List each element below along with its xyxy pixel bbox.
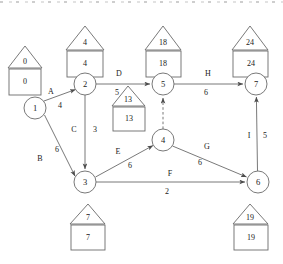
tag-latest-node-2: 4: [83, 60, 87, 68]
edge-duration-D: 5: [115, 89, 119, 97]
edge-label-A: A: [48, 88, 54, 96]
edge-duration-B: 6: [55, 146, 59, 154]
tag-earliest-node-6: 19: [246, 214, 254, 222]
node-label-2: 2: [83, 80, 87, 89]
tag-earliest-node-2: 4: [83, 39, 87, 47]
tag-latest-node-3: 7: [86, 234, 90, 242]
node-label-5: 5: [161, 80, 165, 89]
edge-duration-H: 6: [204, 89, 208, 97]
tag-shape-node-7: [232, 26, 268, 77]
edge-label-F: F: [168, 170, 172, 178]
edge-duration-A: 4: [58, 102, 62, 110]
edge-duration-G: 6: [198, 159, 202, 167]
edge-duration-C: 3: [93, 126, 97, 134]
edge-label-B: B: [37, 155, 42, 163]
tag-shape-node-6: [233, 204, 268, 250]
node-label-3: 3: [83, 178, 87, 187]
node-label-6: 6: [256, 178, 260, 187]
tag-shape-node-3: [70, 204, 105, 250]
network-diagram-canvas: 1 2 3 4 5 6 7 0 0 4 4 7 7 13 13 18 18 19…: [0, 0, 283, 264]
tag-latest-node-1: 0: [23, 78, 27, 86]
edge-duration-I: 5: [263, 132, 267, 140]
edge-label-I: I: [248, 132, 251, 140]
tag-latest-node-4: 13: [125, 115, 133, 123]
tag-shape-node-1: [8, 46, 42, 95]
edge-label-E: E: [116, 148, 121, 156]
tag-earliest-node-3: 7: [86, 214, 90, 222]
edge-duration-E: 6: [128, 162, 132, 170]
tag-latest-node-7: 24: [247, 60, 255, 68]
tag-latest-node-6: 19: [247, 234, 255, 242]
edge-label-G: G: [204, 143, 210, 151]
tag-earliest-node-1: 0: [23, 58, 27, 66]
node-label-4: 4: [161, 136, 165, 145]
tag-shape-node-2: [66, 26, 104, 77]
tag-latest-node-5: 18: [159, 60, 167, 68]
edge-label-H: H: [205, 70, 211, 78]
tag-earliest-node-4: 13: [124, 96, 132, 104]
edge-label-C: C: [71, 126, 76, 134]
edge-label-D: D: [116, 70, 122, 78]
edge-duration-F: 2: [165, 188, 169, 196]
tag-earliest-node-5: 18: [159, 39, 167, 47]
node-label-7: 7: [254, 80, 258, 89]
node-label-1: 1: [33, 104, 37, 113]
tag-earliest-node-7: 24: [246, 39, 254, 47]
edge-I-line: [256, 97, 257, 171]
network-graphics: [0, 0, 283, 264]
edge-E-line: [96, 146, 154, 178]
tag-shape-node-5: [145, 26, 181, 77]
